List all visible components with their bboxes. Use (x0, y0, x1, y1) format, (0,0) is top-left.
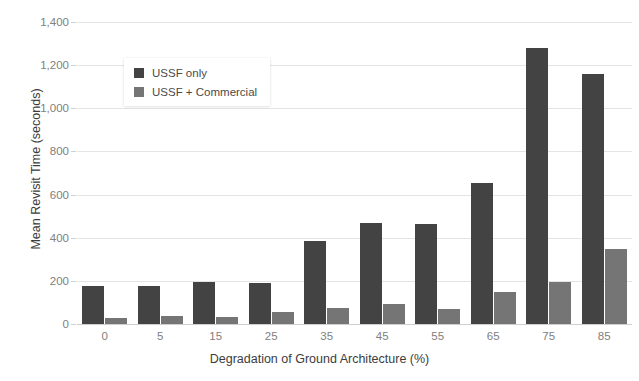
y-tick-mark (71, 65, 76, 66)
bar-0-ussf-only[interactable] (82, 286, 104, 324)
x-axis-title: Degradation of Ground Architecture (%) (0, 352, 639, 366)
bar-25-ussf-commercial[interactable] (272, 312, 294, 325)
y-tick-mark (71, 108, 76, 109)
bar-85-ussf-only[interactable] (582, 74, 604, 324)
y-tick-label: 1,200 (11, 59, 69, 71)
bar-25-ussf-only[interactable] (249, 283, 271, 324)
x-tick-label: 85 (598, 330, 611, 342)
y-tick-label: 0 (11, 318, 69, 330)
y-tick-mark (71, 238, 76, 239)
x-tick-label: 5 (157, 330, 163, 342)
y-tick-mark (71, 151, 76, 152)
x-tick-label: 65 (487, 330, 500, 342)
bar-85-ussf-commercial[interactable] (605, 249, 627, 325)
x-tick-label: 45 (376, 330, 389, 342)
legend-item[interactable]: USSF + Commercial (134, 83, 260, 101)
bar-15-ussf-commercial[interactable] (216, 317, 238, 324)
bar-35-ussf-commercial[interactable] (327, 308, 349, 324)
x-tick-label: 35 (320, 330, 333, 342)
gridline (77, 324, 632, 325)
chart-title (0, 0, 639, 5)
y-tick-label: 600 (11, 189, 69, 201)
bar-group (471, 22, 516, 324)
bar-group (582, 22, 627, 324)
legend-item[interactable]: USSF only (134, 64, 260, 82)
x-tick-label: 15 (209, 330, 222, 342)
chart-legend: USSF onlyUSSF + Commercial (124, 58, 270, 106)
bar-65-ussf-commercial[interactable] (494, 292, 516, 324)
bar-75-ussf-commercial[interactable] (549, 282, 571, 324)
bar-65-ussf-only[interactable] (471, 183, 493, 324)
bar-75-ussf-only[interactable] (526, 48, 548, 324)
bar-35-ussf-only[interactable] (304, 241, 326, 324)
bar-55-ussf-only[interactable] (415, 224, 437, 324)
bar-45-ussf-commercial[interactable] (383, 304, 405, 324)
bar-5-ussf-only[interactable] (138, 286, 160, 324)
legend-swatch-icon (134, 87, 144, 97)
legend-label: USSF + Commercial (152, 86, 257, 98)
bar-5-ussf-commercial[interactable] (161, 316, 183, 324)
bar-0-ussf-commercial[interactable] (105, 318, 127, 324)
y-tick-label: 400 (11, 232, 69, 244)
y-tick-label: 200 (11, 275, 69, 287)
x-tick-label: 25 (265, 330, 278, 342)
y-tick-label: 1,400 (11, 16, 69, 28)
y-tick-label: 1,000 (11, 102, 69, 114)
bar-chart: Mean Revisit Time (seconds) Degradation … (0, 0, 639, 381)
bar-group (304, 22, 349, 324)
x-tick-label: 55 (431, 330, 444, 342)
y-tick-mark (71, 281, 76, 282)
bar-45-ussf-only[interactable] (360, 223, 382, 324)
bar-group (82, 22, 127, 324)
legend-swatch-icon (134, 68, 144, 78)
bar-15-ussf-only[interactable] (193, 282, 215, 324)
y-tick-mark (71, 195, 76, 196)
x-tick-label: 75 (542, 330, 555, 342)
bar-group (415, 22, 460, 324)
bar-group (526, 22, 571, 324)
bar-group (360, 22, 405, 324)
y-tick-mark (71, 22, 76, 23)
y-tick-label: 800 (11, 145, 69, 157)
legend-label: USSF only (152, 67, 207, 79)
y-tick-mark (71, 324, 76, 325)
bar-55-ussf-commercial[interactable] (438, 309, 460, 324)
x-tick-label: 0 (102, 330, 108, 342)
